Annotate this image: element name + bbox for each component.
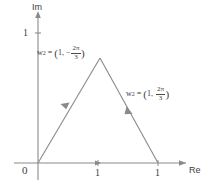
annotation-left-comma: , — [62, 49, 64, 57]
annotation-left-equals: = — [48, 49, 53, 57]
path-arrowhead-left — [61, 103, 70, 110]
annotation-right-close-paren: ) — [166, 89, 170, 100]
real-axis-label: Re — [189, 166, 201, 175]
imaginary-axis-label: Im — [32, 3, 42, 12]
real-axis-arrowhead — [179, 160, 186, 166]
origin-label: 0 — [22, 165, 28, 176]
annotation-left-sign: − — [66, 49, 71, 57]
complex-plane-figure: Im Re 0 1 1 1 w2 = ( 1 , − 2π 3 ) w2 = (… — [0, 0, 211, 185]
annotation-left-denominator: 3 — [74, 54, 78, 62]
annotation-left-fraction: 2π 3 — [71, 45, 80, 61]
annotation-right-comma: , — [151, 90, 153, 98]
x-axis-tick-label-2: 1 — [155, 168, 160, 178]
annotation-right-denominator: 3 — [159, 95, 163, 103]
annotation-right-variable: w — [126, 90, 132, 98]
path-segment-left — [38, 58, 100, 163]
annotation-left-variable: w — [37, 49, 43, 57]
annotation-left: w2 = ( 1 , − 2π 3 ) — [37, 45, 85, 61]
path-arrowhead-right — [125, 107, 133, 115]
annotation-right-equals: = — [137, 90, 142, 98]
imaginary-axis-arrowhead — [35, 11, 41, 18]
x-axis-tick-label-1: 1 — [95, 168, 100, 178]
annotation-left-close-paren: ) — [81, 48, 85, 59]
annotation-right-fraction: 2π 3 — [156, 86, 165, 102]
annotation-right: w2 = ( 1 , 2π 3 ) — [126, 86, 169, 102]
figure-canvas — [0, 0, 211, 185]
y-axis-tick-label-1: 1 — [23, 28, 28, 38]
